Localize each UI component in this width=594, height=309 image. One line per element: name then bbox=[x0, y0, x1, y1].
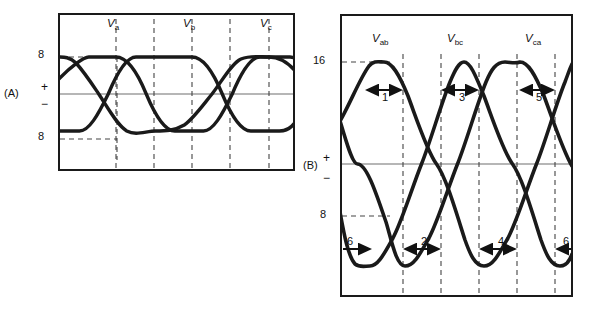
wave-label-vbc: Vbc bbox=[447, 33, 463, 47]
wave-label-vab: Vab bbox=[372, 33, 389, 47]
wave-label-vb-sub: b bbox=[191, 23, 195, 32]
panel-a-svg bbox=[60, 15, 293, 169]
wave-label-vbc-text: V bbox=[447, 32, 455, 44]
panel-a-plus-sign: + bbox=[41, 81, 48, 93]
interval-number-2: 2 bbox=[421, 236, 427, 247]
wave-label-vc-text: V bbox=[260, 17, 268, 29]
wave-label-vab-text: V bbox=[372, 32, 380, 44]
wave-label-vb: Vb bbox=[183, 18, 195, 32]
wave-label-va-text: V bbox=[107, 17, 115, 29]
wave-label-va-sub: a bbox=[115, 23, 119, 32]
wave-label-vc: Vc bbox=[260, 18, 272, 32]
panel-a-plot-area bbox=[58, 13, 295, 171]
panel-a-minus-sign: − bbox=[41, 98, 48, 110]
panel-a-ytick-bottom: 8 bbox=[38, 131, 44, 142]
panel-a-ytick-top: 8 bbox=[38, 49, 44, 60]
wave-label-vca: Vca bbox=[525, 33, 541, 47]
panel-b-plot-area bbox=[340, 14, 573, 297]
panel-a-label: (A) bbox=[4, 88, 19, 99]
wave-label-vc-sub: c bbox=[268, 23, 272, 32]
panel-b-label: (B) bbox=[303, 160, 318, 171]
panel-b-ytick-8: 8 bbox=[320, 209, 326, 220]
wave-label-va: Va bbox=[107, 18, 119, 32]
panel-b-plus-sign: + bbox=[323, 152, 330, 164]
interval-number-6-left: 6 bbox=[347, 236, 353, 247]
interval-number-5: 5 bbox=[536, 92, 542, 103]
panel-b-minus-sign: − bbox=[323, 172, 330, 184]
panel-b-svg bbox=[342, 16, 571, 295]
interval-number-4: 4 bbox=[498, 236, 504, 247]
waveform-vc bbox=[60, 57, 293, 134]
wave-label-vb-text: V bbox=[183, 17, 191, 29]
wave-label-vab-sub: ab bbox=[380, 38, 389, 47]
wave-label-vca-text: V bbox=[525, 32, 533, 44]
interval-number-3: 3 bbox=[459, 92, 465, 103]
panel-b-ytick-16: 16 bbox=[313, 55, 325, 66]
wave-label-vbc-sub: bc bbox=[455, 38, 463, 47]
interval-number-6-right: 6 bbox=[563, 236, 569, 247]
interval-number-1: 1 bbox=[382, 92, 388, 103]
wave-label-vca-sub: ca bbox=[533, 38, 541, 47]
